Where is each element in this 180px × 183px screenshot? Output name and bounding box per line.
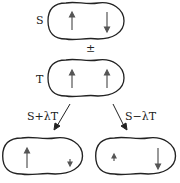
- diagram-canvas: [0, 0, 180, 183]
- spin-down-arrow: [105, 12, 110, 32]
- right-branch-label: S−λT: [125, 110, 156, 123]
- plus-minus-label: ±: [86, 42, 95, 55]
- triplet-orbital: [48, 59, 124, 96]
- s-plus-lambda-t-orbital: [3, 137, 83, 174]
- triplet-label: T: [36, 73, 43, 86]
- left-branch-label: S+λT: [27, 110, 58, 123]
- singlet-label: S: [36, 14, 44, 27]
- spin-down-large-arrow: [156, 148, 161, 169]
- spin-up-arrow: [70, 70, 75, 88]
- spin-up-large-arrow: [25, 148, 30, 168]
- spin-up-small-arrow: [112, 154, 116, 161]
- spin-up-arrow: [105, 70, 110, 88]
- spin-down-small-arrow: [68, 159, 72, 166]
- spin-up-arrow: [70, 12, 75, 30]
- singlet-orbital: [48, 2, 124, 39]
- s-minus-lambda-t-orbital: [96, 137, 176, 174]
